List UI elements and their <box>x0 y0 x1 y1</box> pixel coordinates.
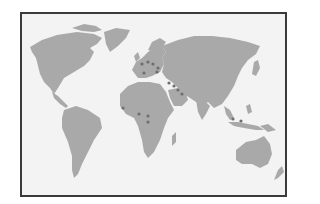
new-zealand <box>274 166 284 180</box>
australia <box>236 136 272 168</box>
central-america <box>52 92 68 108</box>
marker-indonesia <box>239 119 242 122</box>
marker-southern-europe <box>142 71 145 74</box>
africa <box>120 82 174 158</box>
greenland <box>104 28 130 52</box>
marker-middle-east <box>172 84 175 87</box>
marker-central-europe-2 <box>151 62 154 65</box>
madagascar <box>172 132 176 146</box>
north-america <box>30 32 102 94</box>
marker-nigeria <box>137 112 140 115</box>
marker-southeast-asia <box>231 117 234 120</box>
indonesia <box>228 122 264 130</box>
marker-turkey <box>167 81 170 84</box>
marker-congo <box>146 120 149 123</box>
south-america <box>62 106 102 178</box>
marker-iran <box>176 88 179 91</box>
map-frame <box>20 12 287 197</box>
marker-west-africa <box>121 106 124 109</box>
marker-central-europe <box>146 60 149 63</box>
world-map <box>22 14 285 195</box>
marker-balkans <box>155 70 158 73</box>
new-guinea <box>260 124 276 132</box>
marker-western-europe <box>140 62 143 65</box>
india <box>196 100 210 120</box>
marker-gulf <box>180 92 183 95</box>
philippines <box>246 104 252 114</box>
canada-islands <box>72 24 102 32</box>
marker-eastern-europe <box>156 66 159 69</box>
japan <box>252 60 260 76</box>
continents <box>30 24 284 180</box>
marker-central-africa <box>146 114 149 117</box>
